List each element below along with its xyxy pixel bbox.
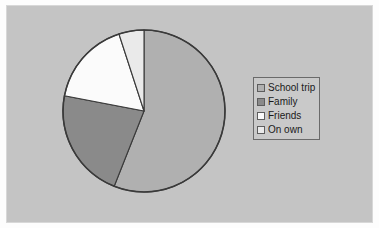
legend-swatch-icon: [257, 84, 265, 92]
plot-area: School tripFamilyFriendsOn own: [7, 6, 372, 222]
legend-swatch-icon: [257, 112, 265, 120]
legend-item-label: Friends: [268, 110, 301, 121]
legend-item: School trip: [257, 81, 316, 94]
pie-chart-figure: School tripFamilyFriendsOn own: [0, 0, 379, 228]
legend-swatch-icon: [257, 126, 265, 134]
legend-item-label: On own: [268, 124, 302, 135]
legend-item-label: School trip: [268, 82, 315, 93]
legend-item: Family: [257, 95, 316, 108]
legend: School tripFamilyFriendsOn own: [253, 77, 320, 140]
pie-graphic: [62, 29, 226, 193]
legend-item-label: Family: [268, 96, 297, 107]
legend-item: Friends: [257, 109, 316, 122]
legend-swatch-icon: [257, 98, 265, 106]
chart-frame: School tripFamilyFriendsOn own: [6, 5, 373, 223]
pie-slices-group: [63, 30, 225, 192]
pie-svg: [62, 29, 226, 193]
legend-item: On own: [257, 123, 316, 136]
